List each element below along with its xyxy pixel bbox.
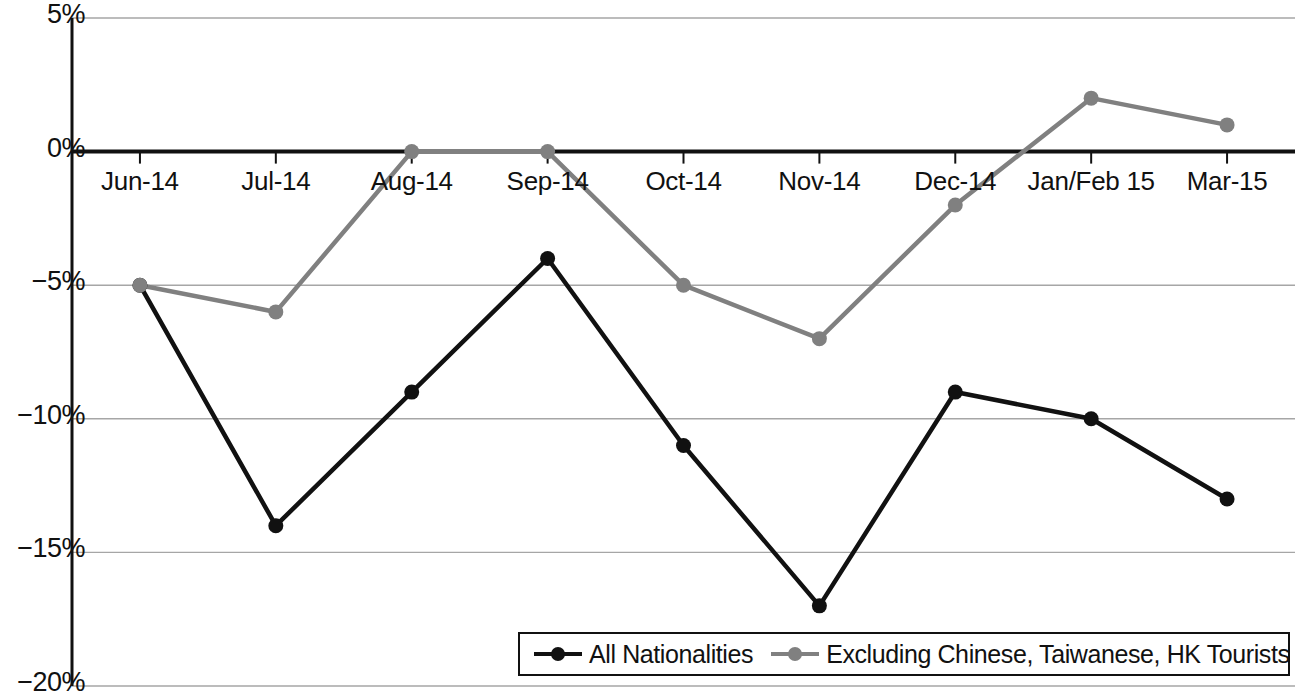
x-tick-label-jan-feb-15: Jan/Feb 15 — [1028, 166, 1155, 197]
legend-marker-all-nationalities-icon — [534, 645, 582, 663]
data-point-marker — [676, 438, 691, 453]
data-point-marker — [540, 251, 555, 266]
y-tick-label-neg15: −15% — [17, 533, 85, 564]
data-point-marker — [540, 144, 555, 159]
y-tick-label-0: 0% — [47, 133, 85, 164]
legend-label-excluding-chinese-taiwanese-hk: Excluding Chinese, Taiwanese, HK Tourist… — [826, 640, 1289, 669]
data-point-marker — [948, 385, 963, 400]
y-tick-label-neg20: −20% — [17, 667, 85, 698]
axis-lines-group — [72, 18, 1295, 686]
data-point-marker — [268, 304, 283, 319]
x-tick-label-dec-14: Dec-14 — [914, 166, 996, 197]
x-tick-label-mar-15: Mar-15 — [1187, 166, 1268, 197]
gridlines-group — [72, 18, 1295, 686]
legend-entry-excluding-chinese-taiwanese-hk: Excluding Chinese, Taiwanese, HK Tourist… — [771, 640, 1289, 669]
data-point-marker — [404, 144, 419, 159]
y-tick-label-neg5: −5% — [32, 266, 85, 297]
x-tick-label-jun-14: Jun-14 — [101, 166, 179, 197]
data-point-marker — [1084, 91, 1099, 106]
y-tick-label-neg10: −10% — [17, 400, 85, 431]
x-tick-label-jul-14: Jul-14 — [241, 166, 310, 197]
x-tick-label-aug-14: Aug-14 — [371, 166, 453, 197]
legend-label-all-nationalities: All Nationalities — [589, 640, 753, 669]
data-point-marker — [268, 518, 283, 533]
legend-marker-excluding-tourists-icon — [771, 645, 819, 663]
legend-entry-all-nationalities: All Nationalities — [534, 640, 753, 669]
x-tick-label-nov-14: Nov-14 — [778, 166, 860, 197]
data-point-marker — [404, 385, 419, 400]
data-point-marker — [676, 278, 691, 293]
data-point-marker — [948, 198, 963, 213]
y-tick-label-5: 5% — [47, 0, 85, 30]
x-tick-label-sep-14: Sep-14 — [507, 166, 589, 197]
data-point-marker — [812, 331, 827, 346]
series-line-1 — [140, 98, 1227, 338]
x-tick-label-oct-14: Oct-14 — [645, 166, 721, 197]
line-chart-plot — [0, 0, 1303, 700]
chart-container: 5% 0% −5% −10% −15% −20% Jun-14 Jul-14 A… — [0, 0, 1303, 700]
chart-legend: All Nationalities Excluding Chinese, Tai… — [518, 632, 1290, 676]
data-point-marker — [132, 278, 147, 293]
data-point-marker — [1220, 491, 1235, 506]
data-point-marker — [1220, 117, 1235, 132]
data-point-marker — [1084, 411, 1099, 426]
series-line-0 — [140, 258, 1227, 605]
data-point-marker — [812, 598, 827, 613]
